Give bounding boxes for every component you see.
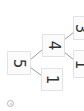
node-label: 3 (73, 23, 84, 33)
copyright-icon (7, 100, 14, 107)
tree-node-1-right: 1 (73, 50, 84, 78)
node-label: 4 (46, 41, 61, 51)
node-label: 1 (44, 75, 59, 85)
node-label: 1 (73, 59, 84, 69)
tree-node-3: 3 (73, 16, 84, 40)
node-label: 5 (11, 58, 26, 68)
tree-node-1-leaf: 1 (41, 68, 63, 91)
edge-5-4 (30, 50, 42, 60)
tree-node-root: 5 (7, 51, 31, 75)
tree-node-4: 4 (42, 34, 65, 57)
